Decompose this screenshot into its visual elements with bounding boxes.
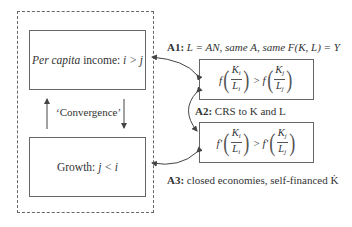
a3-double-arrow-icon — [152, 152, 197, 164]
a2-double-arrow-icon — [189, 92, 198, 131]
connector-arrows — [0, 0, 352, 227]
a1-double-arrow-icon — [152, 57, 197, 75]
